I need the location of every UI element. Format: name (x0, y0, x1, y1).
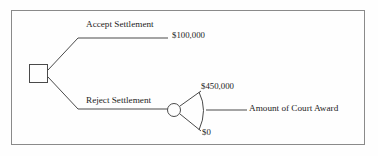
branch-label-accept: Accept Settlement (86, 20, 154, 29)
branch-label-reject: Reject Settlement (86, 96, 151, 105)
fan-arc-continuum (199, 92, 204, 130)
decision-tree-figure: Accept Settlement Reject Settlement $100… (0, 0, 378, 156)
payoff-label-lower-award: $0 (202, 128, 211, 137)
decision-tree-graphics (0, 0, 378, 156)
payoff-label-accept: $100,000 (172, 31, 205, 40)
decision-node-square[interactable] (30, 65, 48, 83)
fan-edge-lower (180, 114, 201, 131)
fan-edge-upper (180, 91, 201, 106)
outcome-variable-label: Amount of Court Award (249, 104, 338, 113)
payoff-label-upper-award: $450,000 (201, 82, 234, 91)
branch-line-accept (48, 38, 168, 70)
chance-node-circle[interactable] (168, 104, 181, 117)
